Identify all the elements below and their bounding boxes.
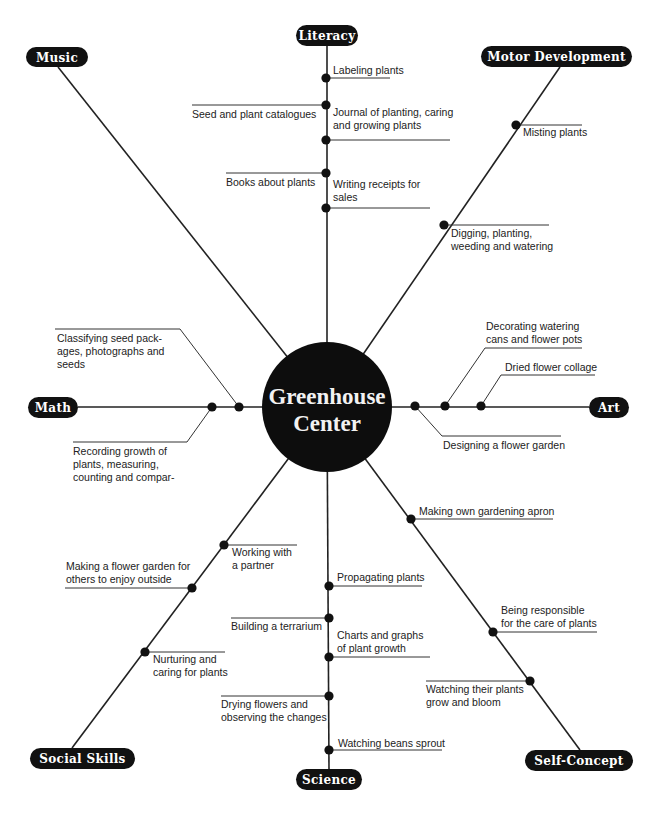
item-dot (525, 676, 534, 685)
activity-text: plants, measuring, (73, 458, 159, 470)
item-dot (324, 745, 333, 754)
activity-text: weeding and watering (450, 240, 553, 252)
activity-item: Working witha partner (232, 546, 292, 571)
category-motor: Motor Development (481, 46, 632, 67)
category-math: Math (28, 397, 78, 418)
item-dot (321, 203, 330, 212)
activity-text: Classifying seed pack- (57, 332, 163, 344)
item-dot (324, 581, 333, 590)
item-dot (321, 100, 330, 109)
category-label: Science (302, 773, 356, 787)
activity-text: Being responsible (501, 604, 585, 616)
activity-item: Journal of planting, caringand growing p… (333, 106, 453, 131)
activity-text: Working with (232, 546, 292, 558)
activity-text: cans and flower pots (486, 333, 582, 345)
category-label: Literacy (299, 29, 357, 43)
activity-item: Charts and graphsof plant growth (337, 629, 423, 654)
activity-item: Books about plants (226, 176, 315, 188)
item-dot (324, 691, 333, 700)
activity-text: Labeling plants (333, 64, 404, 76)
item-dot (410, 401, 419, 410)
category-art: Art (589, 397, 629, 418)
category-science: Science (296, 769, 362, 790)
category-social: Social Skills (30, 748, 135, 769)
item-dot (324, 652, 333, 661)
item-dot (321, 135, 330, 144)
activity-item: Building a terrarium (231, 620, 322, 632)
category-label: Math (35, 401, 72, 415)
activity-text: others to enjoy outside (66, 573, 172, 585)
activity-text: Books about plants (226, 176, 315, 188)
activity-text: Propagating plants (337, 571, 425, 583)
activity-item: Designing a flower garden (443, 439, 565, 451)
activity-item: Writing receipts forsales (333, 178, 421, 203)
activity-text: Making a flower garden for (66, 560, 191, 572)
activity-text: for the care of plants (501, 617, 597, 629)
item-dot (234, 402, 243, 411)
activity-item: Making a flower garden forothers to enjo… (66, 560, 191, 585)
activity-text: sales (333, 191, 358, 203)
activity-text: Charts and graphs (337, 629, 423, 641)
item-dot (439, 220, 448, 229)
activity-item: Watching their plantsgrow and bloom (426, 683, 524, 708)
activity-item: Dried flower collage (505, 361, 597, 373)
activity-text: Recording growth of (73, 445, 167, 457)
item-leader (73, 407, 212, 442)
activity-item: Digging, planting,weeding and watering (450, 227, 553, 252)
activity-text: Nurturing and (153, 653, 217, 665)
activity-item: Propagating plants (337, 571, 425, 583)
activity-item: Making own gardening apron (419, 505, 555, 517)
activity-text: caring for plants (153, 666, 228, 678)
item-dot (187, 583, 196, 592)
activity-text: of plant growth (337, 642, 406, 654)
activity-text: Writing receipts for (333, 178, 421, 190)
item-dot (140, 647, 149, 656)
category-literacy: Literacy (296, 25, 358, 46)
activity-item: Classifying seed pack-ages, photographs … (57, 332, 165, 370)
center-hub: Greenhouse Center (262, 342, 392, 472)
activity-item: Decorating wateringcans and flower pots (486, 320, 582, 345)
center-title-line2: Center (293, 411, 361, 436)
item-dot (476, 401, 485, 410)
item-dot (321, 168, 330, 177)
activity-text: grow and bloom (426, 696, 501, 708)
activity-text: Making own gardening apron (419, 505, 555, 517)
item-dot (406, 514, 415, 523)
item-leader (415, 406, 561, 436)
activity-text: Watching their plants (426, 683, 524, 695)
category-label: Social Skills (39, 752, 125, 766)
item-dot (219, 540, 228, 549)
category-label: Self-Concept (534, 754, 623, 768)
item-leader (445, 348, 582, 406)
activity-text: Dried flower collage (505, 361, 597, 373)
activity-item: Misting plants (523, 126, 587, 138)
category-label: Music (36, 51, 78, 65)
activity-item: Labeling plants (333, 64, 404, 76)
item-dot (321, 73, 330, 82)
activity-text: a partner (232, 559, 275, 571)
category-self: Self-Concept (525, 750, 633, 771)
activity-text: observing the changes (221, 711, 327, 723)
activity-text: Watching beans sprout (338, 737, 445, 749)
activity-text: ages, photographs and (57, 345, 165, 357)
activity-item: Recording growth ofplants, measuring,cou… (73, 445, 175, 483)
activity-text: Digging, planting, (451, 227, 532, 239)
activity-text: seeds (57, 358, 85, 370)
activity-item: Drying flowers andobserving the changes (221, 698, 327, 723)
item-dot (488, 627, 497, 636)
item-dot (324, 613, 333, 622)
item-dot (511, 120, 520, 129)
activity-text: Building a terrarium (231, 620, 322, 632)
activity-text: and growing plants (333, 119, 421, 131)
activity-item: Seed and plant catalogues (192, 108, 316, 120)
item-dot (207, 402, 216, 411)
activity-text: Journal of planting, caring (333, 106, 453, 118)
activity-item: Being responsiblefor the care of plants (501, 604, 597, 629)
category-label: Art (597, 401, 620, 415)
category-label: Motor Development (487, 50, 626, 64)
activity-item: Nurturing andcaring for plants (153, 653, 228, 678)
category-music: Music (26, 47, 88, 67)
activity-item: Watching beans sprout (338, 737, 445, 749)
item-dot (440, 401, 449, 410)
greenhouse-center-web-diagram: Labeling plantsSeed and plant catalogues… (0, 0, 659, 820)
